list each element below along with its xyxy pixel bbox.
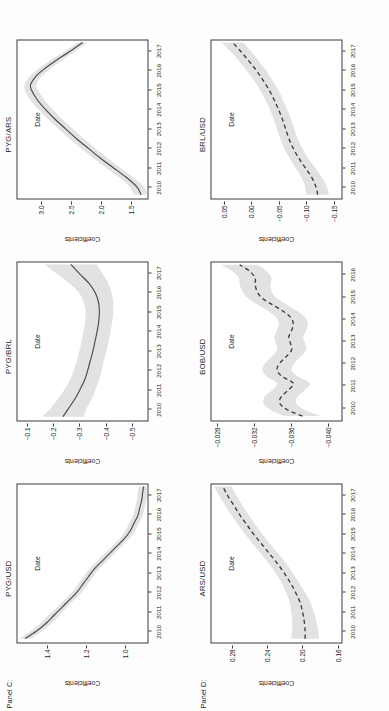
x-tick-label: 2010 — [154, 180, 161, 194]
confidence-band — [221, 42, 328, 194]
chart-panel-brlusd: BRL/USD 0.050.00−0.05−0.10−0.15 Coeffici… — [194, 23, 388, 245]
x-tick-label: 2012 — [154, 363, 161, 377]
y-tick-mark — [26, 423, 27, 426]
y-tick-label: −0.1 — [23, 427, 30, 440]
x-tick-mark — [148, 89, 151, 90]
x-tick-label: 2011 — [348, 605, 355, 618]
x-tick-mark — [342, 572, 345, 573]
y-tick-label: 0.00 — [248, 205, 255, 217]
y-tick-mark — [85, 645, 86, 648]
y-axis-label-pygars: Coefficients — [64, 236, 99, 243]
figure-canvas: Panel C: PYG/USD 1.41.21.0 Coefficients … — [0, 0, 389, 711]
y-tick-label: 1.0 — [121, 649, 128, 658]
chart-title-brlusd: BRL/USD — [197, 23, 206, 245]
y-tick-mark — [278, 201, 279, 204]
y-tick-label: −0.10 — [303, 205, 310, 221]
y-tick-label: 3.0 — [38, 205, 45, 214]
y-tick-mark — [79, 423, 80, 426]
x-tick-mark — [148, 291, 151, 292]
y-tick-label: −0.028 — [214, 427, 221, 447]
y-tick-label: 1.4 — [44, 649, 51, 658]
x-tick-label: 2014 — [154, 102, 161, 116]
x-tick-label: 2016 — [154, 63, 161, 77]
x-axis-label-brlusd: Date — [227, 112, 234, 126]
x-tick-mark — [342, 69, 345, 70]
x-tick-label: 2011 — [348, 379, 355, 392]
x-tick-mark — [148, 167, 151, 168]
x-tick-mark — [342, 407, 345, 408]
x-tick-mark — [148, 611, 151, 612]
x-tick-mark — [148, 311, 151, 312]
y-axis-label-brlusd: Coefficients — [258, 236, 293, 243]
chart-title-pygars: PYG/ARS — [3, 23, 12, 245]
x-tick-label: 2011 — [154, 383, 161, 396]
y-tick-mark — [232, 645, 233, 648]
y-tick-label: −0.2 — [49, 427, 56, 440]
x-tick-label: 2017 — [348, 44, 355, 58]
coefficient-line — [25, 486, 144, 638]
x-tick-mark — [148, 552, 151, 553]
x-tick-mark — [342, 340, 345, 341]
x-tick-label: 2011 — [154, 161, 161, 174]
x-tick-mark — [148, 494, 151, 495]
y-tick-label: −0.5 — [129, 427, 136, 440]
x-tick-label: 2014 — [154, 546, 161, 560]
y-tick-label: 1.5 — [128, 205, 135, 214]
x-tick-mark — [342, 273, 345, 274]
confidence-band — [221, 264, 320, 415]
y-tick-label: −0.05 — [275, 205, 282, 221]
x-tick-label: 2012 — [154, 585, 161, 599]
x-axis-arsusd: 20102011201220132014201520162017 — [342, 483, 372, 643]
x-axis-label-pygars: Date — [33, 112, 40, 126]
x-tick-mark — [148, 147, 151, 148]
x-tick-label: 2012 — [348, 585, 355, 599]
x-tick-mark — [342, 630, 345, 631]
x-tick-label: 2016 — [154, 507, 161, 521]
x-tick-mark — [148, 533, 151, 534]
x-tick-mark — [342, 89, 345, 90]
y-tick-label: 0.16 — [334, 649, 341, 661]
x-tick-label: 2013 — [154, 344, 161, 358]
y-tick-mark — [333, 201, 334, 204]
y-tick-mark — [41, 201, 42, 204]
x-tick-label: 2012 — [348, 141, 355, 155]
x-axis-label-arsusd: Date — [227, 556, 234, 570]
x-tick-mark — [148, 128, 151, 129]
chart-title-bobusd: BOB/USD — [197, 245, 206, 467]
x-tick-mark — [342, 318, 345, 319]
x-tick-mark — [342, 611, 345, 612]
y-tick-mark — [291, 423, 292, 426]
chart-panel-bobusd: BOB/USD −0.028−0.032−0.036−0.040 Coeffic… — [194, 245, 388, 467]
y-tick-label: −0.3 — [76, 427, 83, 440]
x-tick-label: 2011 — [154, 605, 161, 618]
x-axis-brlusd: 20102011201220132014201520162017 — [342, 39, 372, 199]
y-tick-label: −0.15 — [330, 205, 337, 221]
x-tick-mark — [342, 167, 345, 168]
x-tick-mark — [342, 533, 345, 534]
x-tick-label: 2014 — [154, 324, 161, 338]
y-tick-mark — [302, 645, 303, 648]
x-tick-label: 2013 — [348, 566, 355, 580]
x-tick-mark — [148, 330, 151, 331]
y-axis-label-pygusd: Coefficients — [64, 680, 99, 687]
x-tick-label: 2010 — [154, 624, 161, 638]
x-tick-mark — [148, 389, 151, 390]
x-tick-mark — [148, 572, 151, 573]
x-tick-label: 2014 — [348, 546, 355, 560]
y-tick-label: 1.2 — [82, 649, 89, 658]
x-tick-mark — [342, 186, 345, 187]
x-tick-label: 2016 — [348, 267, 355, 281]
x-tick-label: 2013 — [348, 122, 355, 136]
y-tick-label: 2.0 — [98, 205, 105, 214]
y-tick-mark — [52, 423, 53, 426]
x-tick-label: 2010 — [154, 402, 161, 416]
x-tick-mark — [148, 408, 151, 409]
x-tick-mark — [148, 50, 151, 51]
x-tick-label: 2016 — [348, 63, 355, 77]
x-tick-mark — [342, 296, 345, 297]
x-tick-label: 2015 — [154, 83, 161, 97]
y-axis-label-arsusd: Coefficients — [258, 680, 293, 687]
x-tick-mark — [148, 630, 151, 631]
x-tick-label: 2012 — [154, 141, 161, 155]
x-tick-mark — [148, 69, 151, 70]
